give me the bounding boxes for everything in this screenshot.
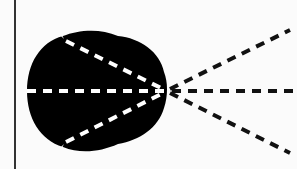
diagram-canvas (0, 0, 297, 169)
